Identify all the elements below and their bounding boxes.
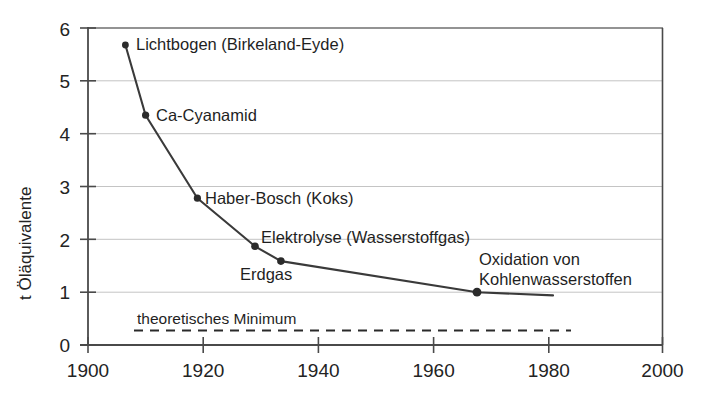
data-point-haber-bosch[interactable]: [194, 195, 201, 202]
x-tick-label-1900: 1900: [67, 360, 109, 381]
y-axis-title: t Öläquivalente: [16, 187, 35, 300]
annotation-oxidation-line1: Oxidation von: [479, 250, 580, 268]
annotation-ca-cyanamid: Ca-Cyanamid: [156, 106, 257, 124]
annotation-haber-bosch: Haber-Bosch (Koks): [205, 189, 354, 207]
x-tick-label-2000: 2000: [641, 360, 683, 381]
annotation-elektrolyse: Elektrolyse (Wasserstoffgas): [261, 228, 470, 246]
x-tick-label-1940: 1940: [297, 360, 339, 381]
x-tick-label-1960: 1960: [412, 360, 454, 381]
annotation-erdgas: Erdgas: [240, 265, 292, 283]
line-chart: 0 1 2 3 4 5 6 1900 1920 1940 1960 1980 2…: [0, 0, 704, 399]
x-tick-label-1920: 1920: [182, 360, 224, 381]
y-tick-label-4: 4: [59, 124, 70, 145]
data-point-oxidation[interactable]: [473, 288, 482, 297]
data-point-lichtbogen[interactable]: [122, 42, 129, 49]
y-tick-label-6: 6: [59, 19, 70, 40]
y-tick-label-5: 5: [59, 71, 70, 92]
y-tick-label-2: 2: [59, 230, 70, 251]
annotation-lichtbogen: Lichtbogen (Birkeland-Eyde): [136, 35, 344, 53]
annotation-theoretical-minimum: theoretisches Minimum: [137, 310, 296, 327]
data-point-erdgas[interactable]: [277, 257, 285, 265]
annotation-oxidation-line2: Kohlenwasserstoffen: [479, 270, 632, 288]
y-tick-label-3: 3: [59, 177, 70, 198]
data-point-ca-cyanamid[interactable]: [142, 112, 149, 119]
y-tick-label-1: 1: [59, 282, 70, 303]
y-tick-label-0: 0: [59, 335, 70, 356]
chart-container: 0 1 2 3 4 5 6 1900 1920 1940 1960 1980 2…: [0, 0, 704, 399]
data-point-elektrolyse[interactable]: [251, 243, 259, 251]
x-tick-label-1980: 1980: [528, 360, 570, 381]
